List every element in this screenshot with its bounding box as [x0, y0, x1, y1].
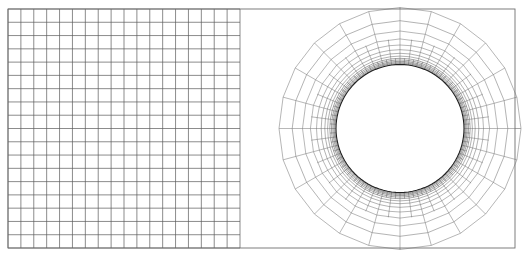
mesh-canvas: [0, 0, 523, 256]
mesh-figure-root: [0, 0, 523, 256]
figure-background: [0, 0, 523, 256]
